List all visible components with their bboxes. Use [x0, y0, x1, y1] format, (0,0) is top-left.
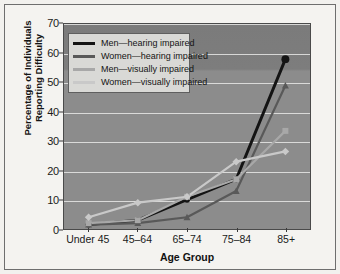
data-point-marker — [86, 220, 92, 226]
data-point-marker — [282, 148, 290, 156]
y-axis-tick-label: 70 — [7, 17, 59, 29]
figure: Percentage of Individuals Reporting Diff… — [0, 0, 340, 274]
y-axis-tick-label: 60 — [7, 47, 59, 59]
x-axis-tick-label: 85+ — [277, 233, 295, 245]
x-axis-tick-label: 75–84 — [222, 233, 251, 245]
legend-item: Women—hearing impaired — [73, 50, 185, 63]
y-axis-labels: 010203040506070 — [5, 23, 59, 230]
x-axis-tick-mark — [286, 228, 287, 232]
x-axis-tick-label: 65–74 — [172, 233, 201, 245]
data-point-marker — [233, 176, 239, 182]
legend-item: Women—visually impaired — [73, 76, 185, 89]
legend-swatch — [73, 55, 95, 58]
legend-item: Men—hearing impaired — [73, 37, 185, 50]
x-axis-tick-mark — [237, 228, 238, 232]
legend: Men—hearing impairedWomen—hearing impair… — [68, 33, 190, 93]
legend-item: Men—visually impaired — [73, 63, 185, 76]
legend-swatch — [73, 68, 95, 71]
y-axis-tick-label: 20 — [7, 165, 59, 177]
y-axis-tick-label: 40 — [7, 106, 59, 118]
y-axis-tick-label: 30 — [7, 135, 59, 147]
x-axis-tick-label: 45–64 — [123, 233, 152, 245]
legend-label: Women—hearing impaired — [101, 52, 208, 61]
y-axis-tick-label: 10 — [7, 194, 59, 206]
x-axis-tick-label: Under 45 — [66, 233, 109, 245]
x-axis-tick-mark — [88, 228, 89, 232]
legend-swatch — [73, 42, 95, 45]
data-point-marker — [281, 55, 289, 63]
figure-frame: Percentage of Individuals Reporting Diff… — [4, 4, 336, 270]
x-axis-tick-mark — [137, 228, 138, 232]
legend-label: Men—hearing impaired — [101, 39, 195, 48]
data-point-marker — [233, 187, 240, 193]
legend-swatch — [73, 81, 95, 84]
data-point-marker — [135, 217, 141, 223]
data-point-marker — [85, 214, 93, 222]
x-axis-tick-mark — [187, 228, 188, 232]
data-point-marker — [282, 82, 289, 88]
x-axis-title: Age Group — [63, 251, 311, 263]
y-axis-tick-label: 50 — [7, 76, 59, 88]
y-axis-tick-label: 0 — [7, 224, 59, 236]
legend-label: Women—visually impaired — [101, 78, 207, 87]
data-point-marker — [282, 128, 288, 134]
series-line — [89, 86, 286, 225]
x-axis-labels: Under 4545–6465–7475–8485+ — [63, 233, 311, 249]
data-point-marker — [134, 199, 142, 207]
legend-label: Men—visually impaired — [101, 65, 194, 74]
